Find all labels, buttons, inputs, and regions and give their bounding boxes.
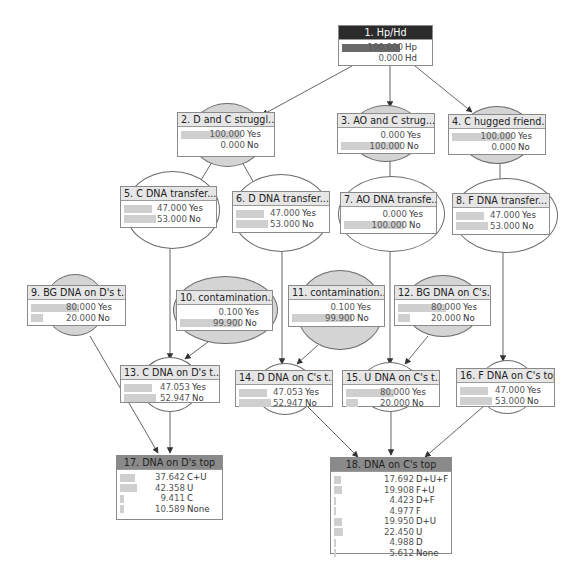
state-row[interactable]: 0.000Yes (344, 209, 433, 220)
node-7[interactable]: 7. AO DNA transfe...0.000Yes100.000No (340, 192, 437, 234)
state-row[interactable]: 47.053Yes (239, 387, 329, 398)
state-label: C+U (187, 472, 219, 483)
state-row[interactable]: 37.642C+U (120, 472, 219, 483)
node-title[interactable]: 18. DNA on C's top (331, 458, 451, 472)
state-row[interactable]: 4.423D+F (334, 495, 448, 506)
state-row[interactable]: 47.000Yes (124, 203, 213, 214)
state-row[interactable]: 20.000No (346, 398, 436, 409)
state-label: No (518, 142, 542, 153)
state-probability: 42.358 (155, 483, 185, 494)
node-title[interactable]: 17. DNA on D's top (117, 456, 222, 470)
node-15[interactable]: 15. U DNA on C's t...80.000Yes20.000No (342, 370, 440, 407)
node-1[interactable]: 1. Hp/Hd100.000Hp0.000Hd (338, 25, 433, 66)
node-14[interactable]: 14. D DNA on C's t...47.053Yes52.947No (235, 370, 333, 407)
node-10[interactable]: 10. contamination...0.100Yes99.900No (176, 290, 273, 331)
node-title[interactable]: 4. C hugged friend... (449, 115, 545, 129)
state-row[interactable]: 100.000Yes (452, 131, 542, 142)
state-row[interactable]: 100.000No (344, 220, 433, 231)
state-row[interactable]: 53.000No (456, 221, 546, 232)
node-8[interactable]: 8. F DNA transfer...47.000Yes53.000No (452, 193, 550, 235)
state-row[interactable]: 19.950D+U (334, 516, 448, 527)
node-title[interactable]: 11. contamination... (289, 286, 384, 300)
state-row[interactable]: 0.100Yes (292, 302, 381, 313)
node-title[interactable]: 16. F DNA on C's top (457, 369, 554, 383)
state-label: Yes (518, 131, 542, 142)
probability-bar (398, 314, 410, 322)
state-row[interactable]: 99.900No (180, 318, 269, 329)
state-row[interactable]: 0.100Yes (180, 307, 269, 318)
state-row[interactable]: 17.692D+U+F (334, 474, 448, 485)
node-16[interactable]: 16. F DNA on C's top47.000Yes53.000No (456, 368, 555, 407)
probability-bar (334, 507, 336, 515)
state-row[interactable]: 53.000No (460, 396, 551, 407)
state-row[interactable]: 52.947No (239, 398, 329, 409)
state-row[interactable]: 0.000No (452, 142, 542, 153)
state-list: 80.000Yes20.000No (395, 300, 490, 325)
node-title[interactable]: 14. D DNA on C's t... (236, 371, 332, 385)
state-row[interactable]: 42.358U (120, 483, 219, 494)
node-title[interactable]: 2. D and C struggl... (178, 113, 274, 127)
probability-bar (124, 384, 152, 392)
state-row[interactable]: 20.000No (398, 313, 487, 324)
state-row[interactable]: 100.000Yes (181, 129, 271, 140)
state-label: No (463, 313, 487, 324)
state-probability: 0.000 (220, 140, 245, 151)
state-row[interactable]: 47.000Yes (460, 385, 551, 396)
state-row[interactable]: 19.908F+U (334, 485, 448, 496)
state-row[interactable]: 53.000No (236, 219, 326, 230)
state-row[interactable]: 22.450U (334, 527, 448, 538)
node-title[interactable]: 13. C DNA on D's t... (121, 366, 219, 380)
node-18[interactable]: 18. DNA on C's top17.692D+U+F19.908F+U4.… (330, 457, 452, 554)
node-title[interactable]: 8. F DNA transfer... (453, 194, 549, 208)
node-3[interactable]: 3. AO and C strug...0.000Yes100.000No (337, 113, 435, 154)
node-title[interactable]: 1. Hp/Hd (339, 26, 432, 40)
state-row[interactable]: 99.900No (292, 313, 381, 324)
state-list: 0.000Yes100.000No (341, 207, 436, 232)
node-5[interactable]: 5. C DNA transfer...47.000Yes53.000No (120, 186, 217, 228)
node-2[interactable]: 2. D and C struggl...100.000Yes0.000No (177, 112, 275, 157)
state-row[interactable]: 80.000Yes (398, 302, 487, 313)
state-probability: 20.000 (431, 313, 461, 324)
state-row[interactable]: 80.000Yes (31, 302, 122, 313)
state-row[interactable]: 0.000No (181, 140, 271, 151)
node-title[interactable]: 7. AO DNA transfe... (341, 193, 436, 207)
probability-bar (124, 215, 156, 223)
state-row[interactable]: 0.000Yes (341, 130, 431, 141)
state-label: None (187, 504, 219, 515)
node-title[interactable]: 6. D DNA transfer... (233, 192, 329, 206)
node-title[interactable]: 10. contamination... (177, 291, 272, 305)
node-title[interactable]: 9. BG DNA on D's t... (28, 286, 125, 300)
state-row[interactable]: 9.411C (120, 493, 219, 504)
state-row[interactable]: 20.000No (31, 313, 122, 324)
state-row[interactable]: 5.612None (334, 548, 448, 559)
node-12[interactable]: 12. BG DNA on C's...80.000Yes20.000No (394, 285, 491, 326)
node-17[interactable]: 17. DNA on D's top37.642C+U42.358U9.411C… (116, 455, 223, 520)
node-title[interactable]: 3. AO and C strug... (338, 114, 434, 128)
node-6[interactable]: 6. D DNA transfer...47.000Yes53.000No (232, 191, 330, 233)
state-row[interactable]: 80.000Yes (346, 387, 436, 398)
state-row[interactable]: 52.947No (124, 393, 216, 404)
node-title[interactable]: 12. BG DNA on C's... (395, 286, 490, 300)
node-title[interactable]: 15. U DNA on C's t... (343, 371, 439, 385)
node-13[interactable]: 13. C DNA on D's t...47.053Yes52.947No (120, 365, 220, 403)
state-row[interactable]: 0.000Hd (342, 53, 429, 64)
state-row[interactable]: 10.589None (120, 504, 219, 515)
state-row[interactable]: 100.000No (341, 141, 431, 152)
state-row[interactable]: 47.000Yes (236, 208, 326, 219)
state-row[interactable]: 4.988D (334, 537, 448, 548)
state-list: 100.000Hp0.000Hd (339, 40, 432, 65)
state-label: Yes (189, 203, 213, 214)
node-11[interactable]: 11. contamination...0.100Yes99.900No (288, 285, 385, 327)
state-probability: 0.000 (491, 142, 516, 153)
state-row[interactable]: 47.053Yes (124, 382, 216, 393)
state-label: Hp (405, 42, 429, 53)
node-9[interactable]: 9. BG DNA on D's t...80.000Yes20.000No (27, 285, 126, 326)
state-row[interactable]: 53.000No (124, 214, 213, 225)
state-row[interactable]: 100.000Hp (342, 42, 429, 53)
state-row[interactable]: 47.000Yes (456, 210, 546, 221)
probability-bar (120, 474, 135, 482)
node-title[interactable]: 5. C DNA transfer... (121, 187, 216, 201)
state-row[interactable]: 4.977F (334, 506, 448, 517)
node-4[interactable]: 4. C hugged friend...100.000Yes0.000No (448, 114, 546, 155)
edge-14-to-18 (307, 406, 358, 457)
